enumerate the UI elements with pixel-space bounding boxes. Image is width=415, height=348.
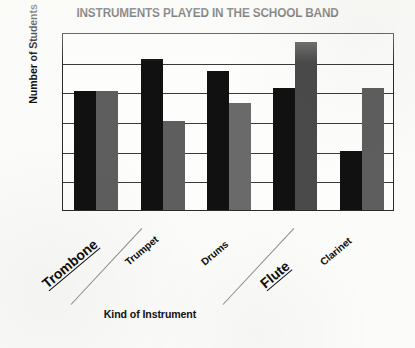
bar: [229, 103, 251, 210]
bar: [295, 42, 317, 210]
plot-area: [62, 33, 394, 211]
bar: [362, 88, 384, 210]
x-tick-label-drums: Drums: [199, 239, 230, 268]
x-tick-label-trumpet: Trumpet: [123, 234, 160, 268]
bar: [96, 91, 118, 210]
x-axis-title: Kind of Instrument: [60, 308, 240, 320]
bar: [207, 71, 229, 210]
bar: [74, 91, 96, 210]
x-tick-label-clarinet: Clarinet: [318, 235, 354, 267]
gridline: [63, 64, 393, 65]
bar: [273, 88, 295, 210]
y-axis-title: Number of Students: [27, 0, 39, 119]
annotation-stroke-trombone: [71, 228, 143, 305]
chart-title: INSTRUMENTS PLAYED IN THE SCHOOL BAND: [10, 6, 404, 20]
bar: [340, 151, 362, 210]
bar: [163, 121, 185, 210]
bar-chart-figure: INSTRUMENTS PLAYED IN THE SCHOOL BAND Nu…: [0, 0, 415, 348]
bar: [141, 59, 163, 210]
